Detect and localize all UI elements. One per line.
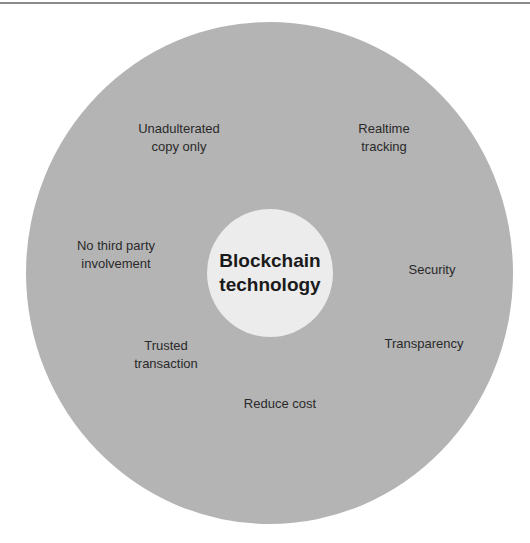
benefit-label: Trusted transaction bbox=[134, 337, 198, 373]
benefit-label: No third party involvement bbox=[77, 237, 155, 273]
center-circle: Blockchain technology bbox=[207, 209, 333, 337]
top-rule bbox=[0, 2, 530, 4]
benefit-label: Security bbox=[409, 261, 456, 279]
benefit-label: Unadulterated copy only bbox=[138, 120, 220, 156]
benefit-label: Transparency bbox=[385, 335, 464, 353]
benefit-label: Realtime tracking bbox=[358, 120, 409, 156]
center-label: Blockchain technology bbox=[219, 249, 320, 297]
benefit-label: Reduce cost bbox=[244, 395, 316, 413]
